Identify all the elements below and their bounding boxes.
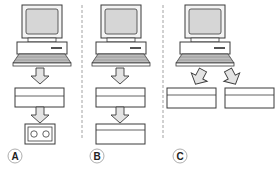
computer-icon xyxy=(13,5,71,66)
panel-label-c: C xyxy=(173,149,187,163)
panel-label-a: A xyxy=(8,149,22,163)
output-box xyxy=(15,88,64,107)
svg-text:B: B xyxy=(93,151,100,162)
output-box xyxy=(167,88,216,108)
output-box xyxy=(225,88,274,108)
panel-a: A xyxy=(8,5,71,163)
cassette-device-icon xyxy=(25,124,55,144)
output-box xyxy=(96,124,145,144)
configuration-diagram: A B xyxy=(0,0,279,171)
computer-icon xyxy=(176,5,234,66)
panel-label-b: B xyxy=(90,149,104,163)
svg-text:C: C xyxy=(176,151,183,162)
output-box xyxy=(96,88,145,107)
panel-b: B xyxy=(90,5,150,163)
arrow-down-icon xyxy=(31,107,49,123)
arrow-down-icon xyxy=(111,68,129,84)
arrow-down-icon xyxy=(111,107,129,123)
svg-text:A: A xyxy=(11,151,18,162)
arrow-down-left-icon xyxy=(188,66,211,89)
arrow-down-icon xyxy=(31,68,49,84)
panel-c: C xyxy=(167,5,274,163)
computer-icon xyxy=(92,5,150,66)
arrow-down-right-icon xyxy=(220,66,243,89)
